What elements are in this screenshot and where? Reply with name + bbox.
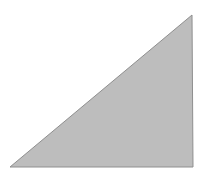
diagram-canvas xyxy=(0,0,206,178)
